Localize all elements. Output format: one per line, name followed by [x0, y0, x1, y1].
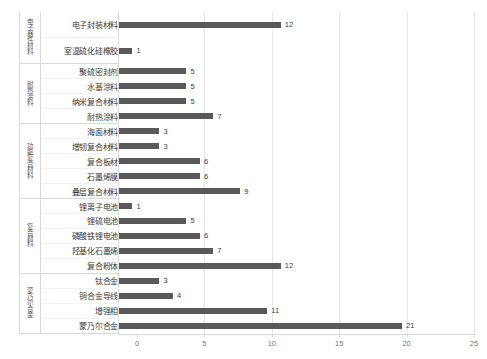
bar-cell: 5	[119, 64, 474, 79]
bar	[119, 83, 186, 89]
group-label-cell: 功能复合材料	[20, 124, 41, 199]
bar-cell: 6	[119, 228, 474, 243]
category-label: 电子封装材料	[41, 12, 119, 37]
chart-row: 铜合金导线4	[20, 288, 474, 303]
category-label: 复合板材	[41, 154, 119, 169]
bar-value-label: 3	[163, 276, 167, 285]
category-label: 增韧复合材料	[41, 139, 119, 154]
group-label: 电子器件材料	[26, 19, 34, 55]
chart-row: 锂硫电池5	[20, 213, 474, 228]
bar-cell: 11	[119, 303, 474, 318]
chart-row: 耐热涂料聚硫密封剂5	[20, 64, 474, 79]
bar	[119, 22, 281, 28]
bar-cell: 6	[119, 154, 474, 169]
x-tick-mark	[339, 334, 340, 337]
category-label: 纳米复合材料	[41, 94, 119, 109]
group-label: 复合材料	[26, 223, 34, 247]
bar	[119, 233, 200, 239]
chart-title	[0, 0, 487, 6]
chart-row: 复合板材6	[20, 154, 474, 169]
bar	[119, 323, 402, 329]
bar-cell: 5	[119, 213, 474, 228]
bar-value-label: 5	[190, 216, 194, 225]
x-axis-line	[118, 334, 474, 335]
group-label-cell: 电子器件材料	[20, 12, 41, 64]
x-tick-mark	[137, 334, 138, 337]
bar	[119, 128, 159, 134]
bar-cell: 7	[119, 109, 474, 124]
bar-value-label: 5	[190, 82, 194, 91]
bar-chart: 电子器件材料电子封装材料12室温硫化硅橡胶1耐热涂料聚硫密封剂5水基涂料5纳米复…	[0, 0, 487, 359]
x-tick-label: 0	[135, 339, 139, 348]
bar-cell: 7	[119, 243, 474, 258]
bar-value-label: 12	[285, 261, 293, 270]
category-label: 磷酸铁锂电池	[41, 228, 119, 243]
bar-cell: 1	[119, 37, 474, 63]
bar-value-label: 7	[217, 112, 221, 121]
bar-value-label: 21	[406, 321, 414, 330]
bar-value-label: 5	[190, 97, 194, 106]
category-label: 石墨烯膜	[41, 169, 119, 184]
group-label-cell: 蒙乃尔合金	[20, 273, 41, 333]
x-tick-label: 25	[470, 339, 478, 348]
x-tick-mark	[407, 334, 408, 337]
bar	[119, 188, 240, 194]
chart-row: 叠层复合材料9	[20, 184, 474, 199]
bar-value-label: 1	[136, 202, 140, 211]
category-label: 室温硫化硅橡胶	[41, 37, 119, 63]
bar-cell: 5	[119, 79, 474, 94]
category-label: 锂离子电池	[41, 199, 119, 214]
chart-rows-table: 电子器件材料电子封装材料12室温硫化硅橡胶1耐热涂料聚硫密封剂5水基涂料5纳米复…	[19, 12, 474, 334]
bar	[119, 293, 173, 299]
category-label: 增强相	[41, 303, 119, 318]
group-label: 功能复合材料	[26, 142, 34, 178]
bar	[119, 48, 132, 54]
bar	[119, 263, 281, 269]
x-tick-mark	[204, 334, 205, 337]
bar-cell: 3	[119, 139, 474, 154]
bar-value-label: 3	[163, 142, 167, 151]
chart-row: 石墨烯膜6	[20, 169, 474, 184]
category-label: 锂硫电池	[41, 213, 119, 228]
bar-value-label: 6	[204, 231, 208, 240]
category-label: 复合粉体	[41, 258, 119, 273]
bar-value-label: 11	[271, 306, 279, 315]
category-label: 叠层复合材料	[41, 184, 119, 199]
category-label: 蒙乃尔合金	[41, 318, 119, 333]
bar	[119, 308, 267, 314]
category-label: 铜合金导线	[41, 288, 119, 303]
group-label: 耐热涂料	[26, 81, 34, 105]
chart-row: 复合材料锂离子电池1	[20, 199, 474, 214]
bar-value-label: 5	[190, 67, 194, 76]
bar-cell: 12	[119, 258, 474, 273]
chart-row: 蒙乃尔合金钛合金3	[20, 273, 474, 288]
chart-row: 羟基化石墨烯7	[20, 243, 474, 258]
bar	[119, 158, 200, 164]
chart-row: 磷酸铁锂电池6	[20, 228, 474, 243]
bar-cell: 1	[119, 199, 474, 214]
bar-cell: 3	[119, 124, 474, 139]
gridline	[474, 12, 475, 334]
bar	[119, 68, 186, 74]
category-label: 耐热涂料	[41, 109, 119, 124]
bar-value-label: 4	[177, 291, 181, 300]
bar-cell: 9	[119, 184, 474, 199]
x-tick-label: 20	[402, 339, 410, 348]
bar-cell: 12	[119, 12, 474, 37]
x-tick-label: 15	[335, 339, 343, 348]
category-label: 海面材料	[41, 124, 119, 139]
chart-row: 室温硫化硅橡胶1	[20, 37, 474, 63]
category-label: 羟基化石墨烯	[41, 243, 119, 258]
bar	[119, 248, 213, 254]
bar-value-label: 1	[136, 46, 140, 55]
bar	[119, 278, 159, 284]
chart-row: 蒙乃尔合金21	[20, 318, 474, 333]
bar-value-label: 6	[204, 157, 208, 166]
bar-value-label: 12	[285, 20, 293, 29]
bar-value-label: 6	[204, 172, 208, 181]
group-label-cell: 耐热涂料	[20, 64, 41, 124]
chart-row: 增强相11	[20, 303, 474, 318]
bar	[119, 143, 159, 149]
chart-row: 纳米复合材料5	[20, 94, 474, 109]
bar	[119, 173, 200, 179]
